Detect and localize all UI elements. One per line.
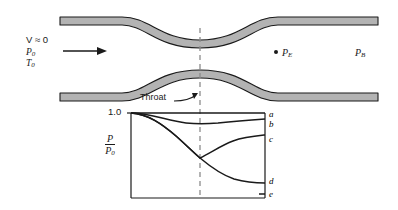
curve-label-a: a — [269, 109, 274, 119]
exit-pressure-label: PE — [282, 48, 292, 59]
throat-pointer-arrow — [174, 93, 198, 101]
inlet-stagnation-temperature-label: T0 — [26, 58, 48, 68]
pressure-curves — [131, 113, 265, 194]
lower-nozzle-wall — [60, 70, 378, 101]
flow-direction-arrow — [63, 47, 107, 55]
curve-label-e: e — [269, 189, 273, 199]
nozzle-pressure-figure: a b c d e — [0, 0, 398, 210]
exit-pressure-dot — [274, 50, 278, 54]
curve-label-b: b — [269, 119, 274, 129]
inlet-velocity-label: V ≈ 0 — [26, 35, 48, 45]
inlet-conditions: V ≈ 0 P0 T0 — [26, 35, 48, 70]
back-pressure-label: PB — [355, 48, 365, 59]
curve-label-d: d — [269, 176, 274, 186]
ytick-label-1-0: 1.0 — [108, 107, 121, 117]
curve-label-c: c — [269, 134, 273, 144]
throat-label: Throat — [140, 93, 166, 102]
inlet-stagnation-pressure-label: P0 — [26, 47, 48, 57]
y-axis-label: P P0 — [105, 134, 115, 157]
chart-axes — [127, 113, 265, 198]
upper-nozzle-wall — [60, 17, 378, 48]
